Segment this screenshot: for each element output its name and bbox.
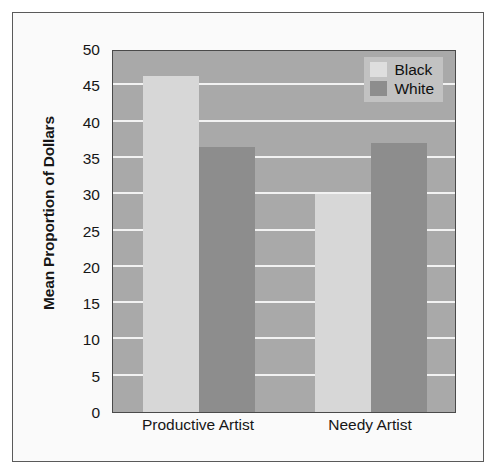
- y-axis-tick-35: 35: [83, 150, 100, 168]
- legend-label-black: Black: [394, 62, 432, 78]
- y-axis-tick-0: 0: [91, 404, 100, 422]
- bar-black-productive-artist: [143, 76, 199, 412]
- y-axis-tick-labels: 05101520253035404550: [56, 50, 106, 413]
- bar-white-needy-artist: [371, 143, 427, 412]
- y-axis-tick-45: 45: [83, 77, 100, 95]
- x-axis-tick-labels: Productive ArtistNeedy Artist: [112, 416, 456, 446]
- legend-swatch-white-icon: [370, 81, 387, 96]
- y-axis-tick-5: 5: [91, 368, 100, 386]
- plot-area: Black White: [112, 50, 456, 413]
- bar-white-productive-artist: [199, 147, 255, 412]
- y-axis-tick-30: 30: [83, 186, 100, 204]
- legend-item-black: Black: [370, 62, 434, 78]
- y-axis-tick-25: 25: [83, 223, 100, 241]
- y-axis-tick-20: 20: [83, 259, 100, 277]
- bar-black-needy-artist: [315, 194, 371, 412]
- legend-swatch-black-icon: [370, 62, 387, 77]
- y-axis-tick-10: 10: [83, 331, 100, 349]
- legend-item-white: White: [370, 81, 434, 97]
- legend: Black White: [364, 57, 443, 102]
- x-axis-label-productive-artist: Productive Artist: [142, 416, 254, 434]
- y-axis-tick-50: 50: [83, 41, 100, 59]
- x-axis-label-needy-artist: Needy Artist: [328, 416, 412, 434]
- y-axis-tick-40: 40: [83, 114, 100, 132]
- legend-label-white: White: [394, 81, 434, 97]
- y-axis-tick-15: 15: [83, 295, 100, 313]
- figure-container: Mean Proportion of Dollars 0510152025303…: [0, 0, 500, 474]
